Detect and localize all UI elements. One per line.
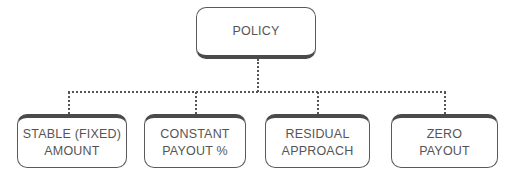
root-node-policy: POLICY bbox=[196, 7, 316, 59]
connector-child-2 bbox=[195, 92, 197, 114]
root-node-label: POLICY bbox=[232, 23, 279, 40]
child-node-label: STABLE (FIXED) AMOUNT bbox=[23, 126, 121, 160]
child-node-zero-payout: ZERO PAYOUT bbox=[391, 114, 498, 168]
child-node-label: RESIDUAL APPROACH bbox=[282, 126, 354, 160]
child-node-stable-fixed-amount: STABLE (FIXED) AMOUNT bbox=[17, 114, 127, 168]
child-node-residual-approach: RESIDUAL APPROACH bbox=[265, 114, 370, 168]
connector-horizontal bbox=[68, 91, 446, 93]
connector-child-3 bbox=[317, 92, 319, 114]
connector-child-4 bbox=[444, 92, 446, 114]
connector-root-vertical bbox=[257, 59, 259, 92]
connector-child-1 bbox=[68, 92, 70, 114]
child-node-label: ZERO PAYOUT bbox=[419, 126, 470, 160]
child-node-constant-payout: CONSTANT PAYOUT % bbox=[144, 114, 246, 168]
child-node-label: CONSTANT PAYOUT % bbox=[160, 126, 229, 160]
